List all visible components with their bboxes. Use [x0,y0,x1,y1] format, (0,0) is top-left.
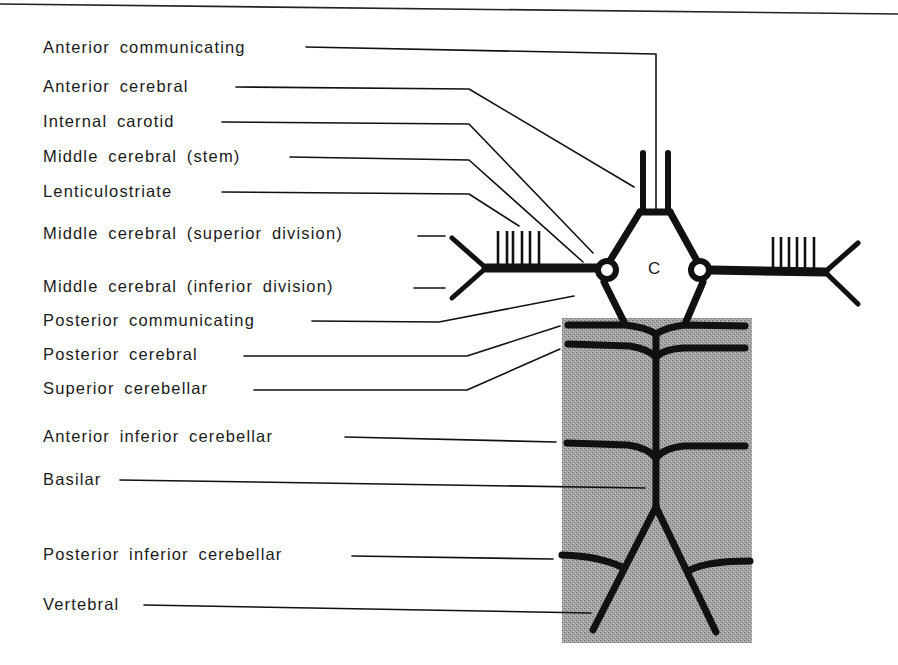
left-middle-cerebral [452,231,597,298]
label-internal-carotid: Internal carotid [43,113,175,130]
leader-lenticulostriate [222,192,519,226]
label-posterior-communicating: Posterior communicating [43,312,255,329]
label-vertebral: Vertebral [43,596,119,613]
leader-vertebral [144,605,591,613]
label-posterior-cerebral: Posterior cerebral [43,346,198,363]
right-lenticulostriates [773,237,814,270]
center-label-c: C [648,259,660,279]
arterial-diagram: C Anterior communicating Anterior cerebr… [0,0,898,665]
label-posterior-inferior-cerebellar: Posterior inferior cerebellar [43,546,282,563]
label-superior-cerebellar: Superior cerebellar [43,380,208,397]
leader-anterior-communicating [306,47,656,212]
label-middle-cerebral-inferior: Middle cerebral (inferior division) [43,278,334,295]
label-anterior-cerebral: Anterior cerebral [43,78,189,95]
label-basilar: Basilar [43,471,102,488]
label-middle-cerebral-stem: Middle cerebral (stem) [43,148,240,165]
leader-superior-cerebellar [254,349,560,390]
label-anterior-communicating: Anterior communicating [43,39,246,56]
leader-posterior-communicating [312,296,574,322]
left-lenticulostriates [498,231,539,265]
leader-pica [352,556,553,559]
leader-anterior-inferior-cerebellar [345,437,556,442]
leader-anterior-cerebral [236,87,634,187]
right-middle-cerebral [710,237,858,304]
label-anterior-inferior-cerebellar: Anterior inferior cerebellar [43,428,273,445]
diagram-artwork [0,0,898,665]
label-middle-cerebral-superior: Middle cerebral (superior division) [43,225,343,242]
top-border-line [0,4,898,14]
right-internal-carotid-ring [691,261,709,279]
leader-posterior-cerebral [244,326,560,356]
label-lenticulostriate: Lenticulostriate [43,183,172,200]
left-internal-carotid-ring [598,261,616,279]
